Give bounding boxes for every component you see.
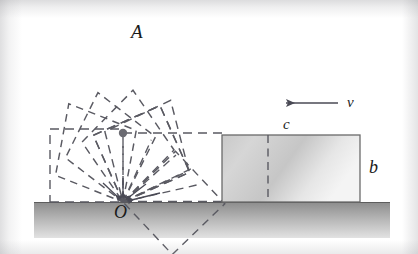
radial-lines-from-pivot bbox=[123, 133, 201, 202]
label-apex-A: A bbox=[131, 22, 143, 41]
sliding-block bbox=[222, 135, 360, 202]
label-block-width-c: c bbox=[283, 117, 290, 132]
ground-surface bbox=[34, 202, 390, 238]
square-tilt-80 bbox=[56, 93, 165, 202]
label-velocity-v: v bbox=[347, 95, 354, 110]
label-block-height-b: b bbox=[369, 158, 378, 176]
physics-diagram-figure: A O c b v bbox=[0, 0, 418, 254]
diagram-canvas bbox=[0, 0, 418, 254]
square-tilt-62 bbox=[72, 90, 184, 202]
cube-center-dot bbox=[119, 129, 127, 137]
label-pivot-O: O bbox=[114, 203, 127, 221]
